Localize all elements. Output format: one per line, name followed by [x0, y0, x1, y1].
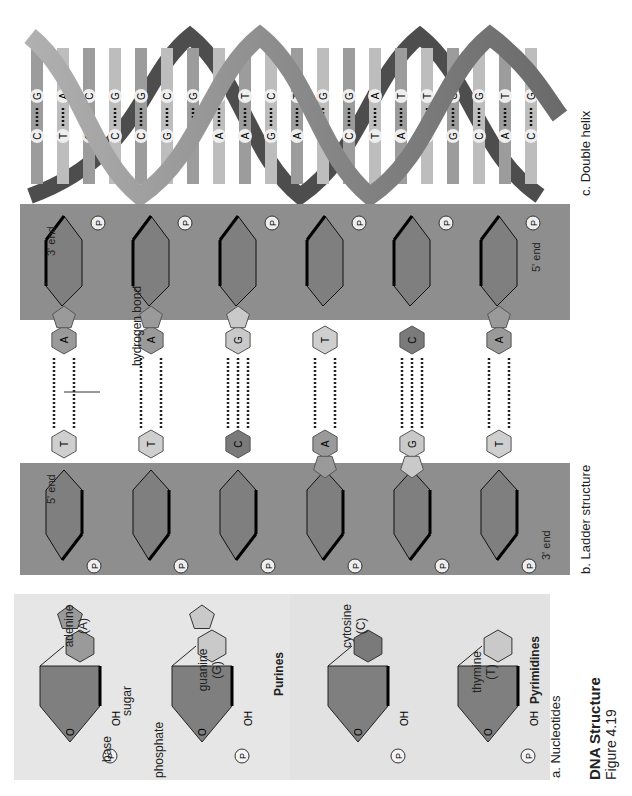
hydrogen-bond-label: hydrogen bond [130, 286, 144, 366]
cytosine-abbr: (C) [354, 618, 368, 635]
base-annotation: base [100, 736, 114, 762]
panel-label-ladder: b. Ladder structure [578, 465, 593, 574]
svg-text:O: O [65, 728, 76, 736]
svg-text:O: O [353, 728, 364, 736]
ladder-left-bottom-end: 3' end [540, 530, 552, 560]
svg-text:P: P [524, 753, 534, 759]
svg-text:P: P [394, 753, 404, 759]
thymine-label: thymine [470, 651, 484, 693]
figure-title: DNA Structure [586, 677, 603, 780]
svg-text:OH: OH [529, 711, 540, 726]
guanine-abbr: (G) [210, 661, 224, 678]
svg-text:OH: OH [243, 711, 254, 726]
guanine-label: guanine [196, 649, 210, 692]
panel-label-double-helix: c. Double helix [578, 111, 593, 196]
svg-text:OH: OH [399, 711, 410, 726]
ladder-right-bottom-end: 5' end [530, 242, 542, 272]
cytosine-name: cytosine (C) [340, 596, 368, 656]
thymine-name: thymine (T) [470, 642, 498, 702]
adenine-abbr: (A) [76, 618, 90, 634]
svg-text:P: P [238, 753, 248, 759]
purines-label: Purines [272, 652, 286, 696]
pyrimidines-label: Pyrimidines [528, 636, 542, 704]
figure-subtitle: Figure 4.19 [603, 709, 619, 780]
thymine-abbr: (T) [484, 664, 498, 679]
dna-structure-figure: CGTAGCCGCGGCCGATATGCATCGCGTAATATGCCGATCG… [0, 0, 632, 796]
adenine-label: adenine [62, 605, 76, 648]
sugar-annotation: sugar [120, 686, 134, 716]
cytosine-label: cytosine [340, 604, 354, 648]
panel-label-nucleotides: a. Nucleotides [548, 696, 563, 778]
ladder-left-top-end: 5' end [45, 474, 57, 504]
svg-text:O: O [483, 728, 494, 736]
adenine-name: adenine (A) [62, 596, 90, 656]
guanine-name: guanine (G) [196, 640, 224, 700]
svg-text:O: O [197, 728, 208, 736]
phosphate-annotation: phosphate [152, 722, 166, 778]
ladder-right-top-end: 3' end [45, 226, 57, 256]
